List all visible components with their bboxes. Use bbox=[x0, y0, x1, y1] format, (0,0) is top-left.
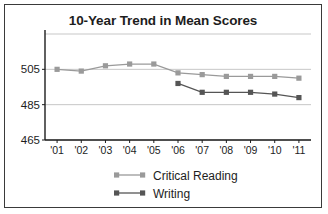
data-point-marker bbox=[296, 76, 301, 81]
x-axis-label: '07 bbox=[195, 144, 209, 156]
x-axis-label: '10 bbox=[268, 144, 282, 156]
x-axis-label: '04 bbox=[123, 144, 137, 156]
chart-plot-area: 505485465 '01'02'03'04'05'06'07'08'09'10… bbox=[5, 5, 323, 209]
data-series-layer bbox=[54, 61, 301, 100]
x-axis-label: '01 bbox=[50, 144, 64, 156]
data-point-marker bbox=[224, 90, 229, 95]
data-point-marker bbox=[175, 81, 180, 86]
x-axis-label: '05 bbox=[147, 144, 161, 156]
x-axis-label: '11 bbox=[292, 144, 305, 156]
data-point-marker bbox=[272, 74, 277, 79]
legend-label: Critical Reading bbox=[153, 169, 238, 183]
x-axis-label: '09 bbox=[244, 144, 258, 156]
data-point-marker bbox=[103, 63, 108, 68]
chart-legend: Critical ReadingWriting bbox=[114, 169, 238, 201]
x-axis-label: '08 bbox=[220, 144, 234, 156]
x-axis-label: '02 bbox=[74, 144, 88, 156]
y-axis-label: 465 bbox=[21, 134, 40, 146]
data-point-marker bbox=[296, 95, 301, 100]
x-axis-label: '06 bbox=[171, 144, 185, 156]
y-axis-ticks: 505485465 bbox=[21, 63, 45, 146]
x-axis-ticks: '01'02'03'04'05'06'07'08'09'10'11 bbox=[50, 140, 305, 156]
legend-label: Writing bbox=[153, 187, 190, 201]
data-point-marker bbox=[272, 91, 277, 96]
legend-marker bbox=[140, 172, 145, 177]
data-point-marker bbox=[200, 72, 205, 77]
gridlines bbox=[45, 34, 311, 140]
x-axis-label: '03 bbox=[99, 144, 113, 156]
series-line bbox=[178, 83, 299, 97]
data-point-marker bbox=[224, 74, 229, 79]
data-point-marker bbox=[248, 74, 253, 79]
data-point-marker bbox=[248, 90, 253, 95]
data-point-marker bbox=[54, 67, 59, 72]
data-point-marker bbox=[175, 70, 180, 75]
y-axis-label: 505 bbox=[21, 63, 40, 75]
legend-marker bbox=[114, 190, 119, 195]
legend-marker bbox=[140, 190, 145, 195]
y-axis-label: 485 bbox=[21, 99, 40, 111]
data-point-marker bbox=[151, 61, 156, 66]
data-point-marker bbox=[200, 90, 205, 95]
data-point-marker bbox=[127, 61, 132, 66]
data-point-marker bbox=[79, 69, 84, 74]
chart-container: 10-Year Trend in Mean Scores 505485465 '… bbox=[4, 4, 322, 208]
legend-marker bbox=[114, 172, 119, 177]
